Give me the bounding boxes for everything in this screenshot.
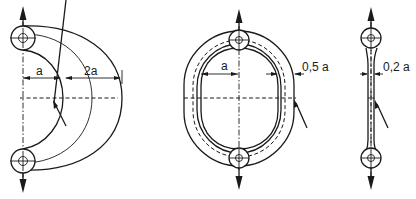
dim-arrow-icon	[23, 76, 30, 80]
dim-arrow-icon	[374, 72, 380, 76]
force-arrow-up-icon	[368, 7, 375, 21]
technical-diagram: a 2a	[0, 0, 416, 199]
section-pointer-line	[55, 104, 66, 126]
dim-label-a: a	[221, 59, 228, 73]
inner-arc	[23, 50, 63, 149]
force-arrow-down-icon	[368, 176, 375, 190]
force-arrow-up-icon	[20, 6, 27, 20]
section-pointer-line	[377, 104, 388, 128]
dim-arrow-icon	[362, 72, 368, 76]
section-pointer-line	[54, 0, 66, 103]
dim-arrow-icon	[231, 72, 238, 76]
force-arrow-up-icon	[236, 9, 243, 23]
dim-label-2a: 2a	[84, 64, 98, 78]
force-arrow-down-icon	[236, 176, 243, 190]
dim-label-02a: 0,2 a	[383, 60, 410, 74]
bar-right-edge	[374, 48, 377, 152]
force-arrow-down-icon	[20, 179, 27, 193]
dim-label-05a: 0,5 a	[302, 60, 329, 74]
dim-label-a: a	[36, 64, 43, 78]
section-pointer-line	[296, 103, 307, 128]
bar-left-edge	[366, 48, 368, 152]
dim-arrow-icon	[65, 76, 72, 80]
figure-straight-bar-link: 0,2 a	[360, 7, 410, 190]
figure-c-shaped-link: a 2a	[10, 0, 122, 193]
dim-arrow-icon	[294, 72, 301, 76]
figure-oval-ring-link: a 0,5 a	[184, 9, 329, 190]
